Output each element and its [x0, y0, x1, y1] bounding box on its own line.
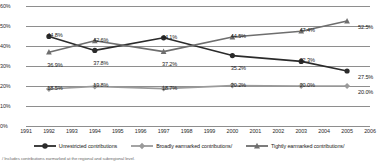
series-layer [26, 6, 370, 126]
x-axis-tick-label: 1999 [204, 128, 216, 134]
chart-footnote: / Includes contributions earmarked at th… [2, 156, 376, 161]
data-point-marker [344, 83, 350, 89]
plot-area: 44.8%37.8%44.1%35.2%32.3%27.5%18.5%19.8%… [26, 6, 370, 126]
data-point-label: 19.8% [93, 82, 108, 88]
data-point-label: 35.2% [231, 65, 246, 71]
data-point-label: 18.7% [162, 85, 177, 91]
x-axis-tick-label: 1997 [158, 128, 170, 134]
data-point-marker [92, 48, 97, 53]
legend-label: Broadly earmarked contributions/ [156, 143, 232, 149]
x-axis-tick-label: 2001 [250, 128, 262, 134]
legend-label: Tightly earmarked contributions/ [271, 143, 344, 149]
x-axis-tick-label: 1993 [66, 128, 78, 134]
y-axis-tick-label: 20% [0, 83, 24, 89]
data-point-marker [230, 53, 235, 58]
data-point-label: 47.4% [300, 27, 315, 33]
y-axis-tick-label: 40% [0, 43, 24, 49]
data-point-label: 32.3% [300, 57, 315, 63]
legend-label: Unrestricted contributions [59, 143, 118, 149]
legend-item[interactable]: Broadly earmarked contributions/ [131, 142, 232, 150]
data-point-label: 36.9% [47, 62, 62, 68]
x-axis-tick-label: 2000 [227, 128, 239, 134]
y-axis-tick-label: 30% [0, 63, 24, 69]
data-point-label: 20.2% [231, 82, 246, 88]
data-point-label: 42.6% [93, 37, 108, 43]
diamond-marker-icon [131, 142, 153, 150]
legend-item[interactable]: Unrestricted contributions [34, 142, 118, 150]
data-point-label: 44.1% [162, 34, 177, 40]
data-point-label: 27.5% [358, 74, 373, 80]
data-point-label: 20.0% [358, 89, 373, 95]
x-axis-tick-label: 1992 [43, 128, 55, 134]
x-axis-tick-label: 1998 [181, 128, 193, 134]
x-axis-tick-label: 2003 [295, 128, 307, 134]
x-axis-tick-label: 2006 [364, 128, 376, 134]
chart-legend: Unrestricted contributionsBroadly earmar… [0, 142, 378, 150]
x-axis-tick-label: 2002 [272, 128, 284, 134]
y-axis-tick-label: 60% [0, 3, 24, 9]
chart-container: 44.8%37.8%44.1%35.2%32.3%27.5%18.5%19.8%… [0, 0, 378, 164]
data-point-label: 52.5% [358, 24, 373, 30]
x-axis-tick-label: 1995 [112, 128, 124, 134]
x-axis-tick-label: 2005 [341, 128, 353, 134]
x-axis-ticks: 1991199219931994199519961997199819992000… [26, 128, 370, 138]
data-point-label: 37.2% [162, 61, 177, 67]
triangle-marker-icon [246, 142, 268, 150]
data-point-label: 20.0% [300, 82, 315, 88]
x-axis-tick-label: 1996 [135, 128, 147, 134]
y-axis-tick-label: 50% [0, 23, 24, 29]
gridline [26, 126, 370, 127]
x-axis-tick-label: 1994 [89, 128, 101, 134]
circle-marker-icon [34, 142, 56, 150]
data-point-label: 37.8% [93, 60, 108, 66]
data-point-marker [344, 68, 349, 73]
x-axis-tick-label: 2004 [318, 128, 330, 134]
y-axis-tick-label: 10% [0, 103, 24, 109]
data-point-label: 18.5% [47, 85, 62, 91]
legend-item[interactable]: Tightly earmarked contributions/ [246, 142, 344, 150]
data-point-label: 44.8% [47, 32, 62, 38]
x-axis-tick-label: 1991 [20, 128, 32, 134]
data-point-label: 44.5% [231, 33, 246, 39]
